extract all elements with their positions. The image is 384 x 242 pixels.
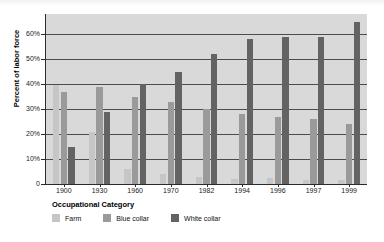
y-tick-mark: [41, 109, 46, 110]
bar-white-1999: [354, 22, 361, 185]
legend-item-white[interactable]: White collar: [171, 214, 221, 222]
legend-label-white: White collar: [184, 215, 221, 222]
bar-farm-1930: [89, 132, 96, 185]
bar-farm-1999: [338, 180, 345, 185]
x-tick-label-1994: 1994: [226, 187, 258, 194]
y-tick-mark: [41, 134, 46, 135]
bar-blue-1900: [61, 92, 68, 185]
legend-title: Occupational Category: [52, 200, 243, 209]
y-tick-label: 10%: [18, 155, 40, 162]
bar-white-1970: [175, 72, 182, 185]
bar-white-1930: [104, 112, 111, 185]
x-tick-label-1999: 1999: [333, 187, 365, 194]
legend-swatch-white-icon: [171, 214, 179, 222]
legend: Occupational Category FarmBlue collarWhi…: [52, 200, 243, 222]
y-tick-label: 60%: [18, 30, 40, 37]
bar-farm-1996: [267, 178, 274, 184]
bar-white-1997: [318, 37, 325, 185]
bar-blue-1960: [132, 97, 139, 185]
bar-blue-1994: [239, 114, 246, 184]
bar-farm-1960: [124, 169, 131, 184]
y-tick-label: 50%: [18, 55, 40, 62]
y-tick-label: 20%: [18, 130, 40, 137]
bar-white-1960: [140, 84, 147, 184]
bar-white-1996: [282, 37, 289, 185]
x-tick-label-1970: 1970: [155, 187, 187, 194]
y-tick-label: 0: [18, 180, 40, 187]
x-tick-label-1997: 1997: [298, 187, 330, 194]
x-tick-label-1996: 1996: [262, 187, 294, 194]
bar-farm-1994: [231, 179, 238, 184]
y-tick-mark: [41, 184, 46, 185]
x-tick-label-1930: 1930: [84, 187, 116, 194]
bar-blue-1970: [168, 102, 175, 185]
y-tick-mark: [41, 159, 46, 160]
bar-blue-1982: [203, 109, 210, 184]
y-tick-mark: [41, 84, 46, 85]
y-tick-label: 30%: [18, 105, 40, 112]
legend-items: FarmBlue collarWhite collar: [52, 214, 243, 222]
legend-label-blue: Blue collar: [116, 215, 149, 222]
bar-farm-1900: [53, 85, 60, 184]
bar-farm-1997: [303, 180, 310, 185]
legend-swatch-farm-icon: [52, 214, 60, 222]
y-tick-mark: [41, 34, 46, 35]
gridline-60: [46, 34, 367, 35]
y-tick-mark: [41, 59, 46, 60]
bar-blue-1997: [310, 119, 317, 184]
legend-swatch-blue-icon: [103, 214, 111, 222]
chart-figure: Percent of labor force 010%20%30%40%50%6…: [0, 0, 384, 242]
legend-item-farm[interactable]: Farm: [52, 214, 81, 222]
bar-farm-1982: [196, 177, 203, 184]
y-tick-label: 40%: [18, 80, 40, 87]
x-tick-label-1960: 1960: [119, 187, 151, 194]
bar-white-1900: [68, 147, 75, 185]
x-tick-label-1982: 1982: [191, 187, 223, 194]
clipped-title-banner: [0, 0, 384, 6]
bar-blue-1930: [96, 87, 103, 185]
bar-white-1994: [247, 39, 254, 184]
legend-label-farm: Farm: [65, 215, 81, 222]
x-tick-label-1900: 1900: [48, 187, 80, 194]
bar-blue-1996: [275, 117, 282, 185]
bar-farm-1970: [160, 174, 167, 184]
bar-white-1982: [211, 54, 218, 184]
bar-blue-1999: [346, 124, 353, 184]
legend-item-blue[interactable]: Blue collar: [103, 214, 149, 222]
